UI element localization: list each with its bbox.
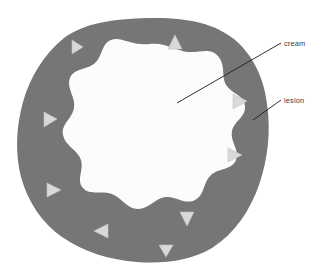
diagram-svg: cream lesion bbox=[0, 0, 328, 276]
lesion-cream-figure: cream lesion bbox=[0, 0, 328, 276]
callout-cream-label: cream bbox=[284, 39, 305, 48]
callout-lesion-label: lesion bbox=[284, 96, 304, 105]
